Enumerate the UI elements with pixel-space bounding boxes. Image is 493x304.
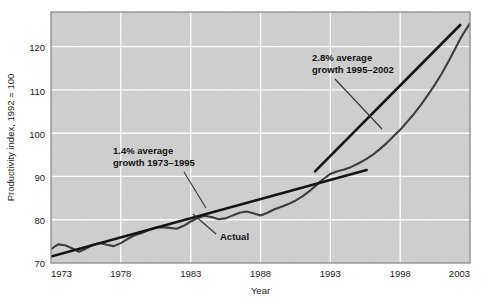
chart-canvas: 1.4% average growth 1973–1995 2.8% avera… (0, 0, 493, 304)
x-tick-label-1978: 1978 (110, 268, 131, 279)
x-tick-label-2003: 2003 (449, 268, 470, 279)
annotation-2-line-1: 2.8% average (312, 52, 372, 63)
y-tick-label-80: 80 (34, 215, 45, 226)
annotation-2-line-2: growth 1995–2002 (312, 64, 394, 75)
productivity-index-chart-figure: 1.4% average growth 1973–1995 2.8% avera… (0, 0, 493, 304)
x-axis-title: Year (251, 285, 270, 296)
plot-area (51, 12, 470, 263)
x-tick-label-1988: 1988 (250, 268, 271, 279)
y-tick-label-90: 90 (34, 172, 45, 183)
x-tick-label-1983: 1983 (180, 268, 201, 279)
x-axis-tick-labels: 1973 1978 1983 1988 1993 1998 2003 (51, 268, 470, 279)
annotation-actual-label: Actual (220, 231, 249, 242)
y-tick-label-120: 120 (29, 42, 45, 53)
y-tick-label-100: 100 (29, 129, 45, 140)
x-tick-label-1993: 1993 (320, 268, 341, 279)
annotation-1-line-2: growth 1973–1995 (113, 157, 196, 168)
y-tick-label-110: 110 (30, 86, 45, 97)
y-tick-label-70: 70 (34, 258, 45, 269)
annotation-1-line-1: 1.4% average (113, 145, 173, 156)
x-tick-label-1998: 1998 (390, 268, 411, 279)
y-axis-title: Productivity index, 1992 = 100 (5, 74, 16, 202)
x-tick-label-1973: 1973 (51, 268, 72, 279)
